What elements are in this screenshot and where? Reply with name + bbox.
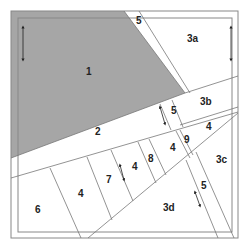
piece-label-1: 1 — [86, 66, 92, 77]
piece-label-4: 4 — [78, 188, 84, 199]
seam-line — [160, 104, 171, 130]
seam-line — [111, 150, 133, 201]
piece-label-5: 5 — [171, 105, 177, 116]
seam-line — [87, 157, 112, 220]
seam-line — [50, 168, 81, 238]
seam-line — [196, 152, 234, 238]
piece-label-3a: 3a — [187, 33, 199, 44]
piece-label-6: 6 — [35, 204, 41, 215]
seam-line — [186, 160, 218, 238]
piece-label-4: 4 — [206, 121, 212, 132]
grain-arrow-icon — [195, 192, 200, 206]
piece-label-8: 8 — [148, 153, 154, 164]
piece-label-3c: 3c — [216, 154, 228, 165]
quilt-block-diagram: 1 2 3a 3b 3c 3d 4 4 4 4 5 5 5 6 7 8 9 — [0, 0, 249, 247]
piece-label-7: 7 — [106, 174, 112, 185]
piece-label-3b: 3b — [200, 96, 212, 107]
piece-label-4: 4 — [132, 161, 138, 172]
piece-label-2: 2 — [95, 126, 101, 137]
piece-label-5: 5 — [201, 180, 207, 191]
piece-label-3d: 3d — [163, 202, 175, 213]
piece-label-4: 4 — [170, 142, 176, 153]
piece-label-9: 9 — [184, 134, 190, 145]
seam-line — [185, 76, 238, 93]
piece-label-5: 5 — [136, 15, 142, 26]
